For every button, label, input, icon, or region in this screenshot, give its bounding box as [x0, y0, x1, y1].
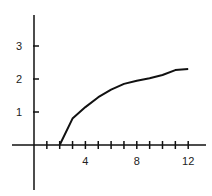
x-tick-label: 4 [82, 155, 88, 167]
axis-ticks [33, 46, 188, 149]
x-tick-label: 12 [182, 155, 194, 167]
axes [12, 15, 206, 190]
y-tick-label: 2 [16, 73, 22, 85]
y-tick-label: 1 [16, 106, 22, 118]
tick-labels: 4812123 [16, 40, 194, 167]
y-tick-label: 3 [16, 40, 22, 52]
data-line [60, 69, 189, 145]
line-chart: 4812123 [0, 0, 212, 196]
x-tick-label: 8 [134, 155, 140, 167]
